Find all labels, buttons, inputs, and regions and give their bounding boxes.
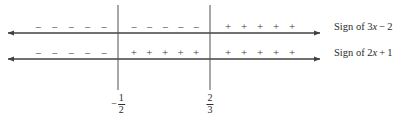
sign-group-top-middle: −−−−−	[126, 20, 204, 34]
plus-sign-icon: +	[142, 47, 158, 58]
negative-sign-icon: −	[111, 99, 117, 109]
fraction-two-thirds: 2 3	[207, 93, 214, 115]
plus-sign-icon: +	[236, 21, 252, 32]
plus-sign-icon: +	[252, 21, 268, 32]
plus-sign-icon: +	[188, 47, 204, 58]
plus-sign-icon: +	[268, 47, 284, 58]
tick-label-neg-one-half: − 1 2	[111, 93, 125, 115]
plus-sign-icon: +	[284, 21, 300, 32]
minus-sign-icon: −	[63, 48, 79, 59]
minus-sign-icon: −	[188, 22, 204, 33]
minus-sign-icon: −	[142, 22, 158, 33]
fraction-denominator: 3	[207, 105, 214, 115]
plus-sign-icon: +	[220, 47, 236, 58]
axis-label-bottom-variable: x	[373, 47, 378, 58]
minus-sign-icon: −	[96, 48, 112, 59]
plus-sign-icon: +	[236, 47, 252, 58]
number-line-axes	[0, 0, 401, 120]
sign-group-top-right: +++++	[220, 19, 300, 33]
fraction-denominator: 2	[118, 105, 125, 115]
axis-label-bottom: Sign of 2x + 1	[334, 47, 393, 58]
axis-label-top-prefix: Sign of	[334, 21, 367, 32]
tick-label-two-thirds: 2 3	[207, 93, 214, 115]
minus-sign-icon: −	[30, 22, 46, 33]
sign-group-top-left: −−−−−	[30, 20, 112, 34]
minus-sign-icon: −	[157, 22, 173, 33]
minus-sign-icon: −	[79, 48, 95, 59]
axis-label-top-constant: 2	[387, 21, 392, 32]
sign-chart-figure: −−−−− −−−−− +++++ −−−−− +++++ +++++ Sign…	[0, 0, 401, 120]
minus-sign-icon: −	[79, 22, 95, 33]
minus-sign-icon: −	[96, 22, 112, 33]
axis-label-bottom-constant: 1	[387, 47, 392, 58]
minus-sign-icon: −	[46, 48, 62, 59]
plus-sign-icon: +	[252, 47, 268, 58]
sign-group-bottom-left: −−−−−	[30, 46, 112, 60]
minus-sign-icon: −	[46, 22, 62, 33]
minus-sign-icon: −	[126, 22, 142, 33]
axis-label-top: Sign of 3x − 2	[334, 21, 393, 32]
plus-sign-icon: +	[126, 47, 142, 58]
plus-sign-icon: +	[157, 47, 173, 58]
minus-sign-icon: −	[30, 48, 46, 59]
fraction-numerator: 1	[118, 93, 125, 103]
axis-label-bottom-operator: +	[379, 47, 385, 58]
minus-sign-icon: −	[63, 22, 79, 33]
sign-group-bottom-middle: +++++	[126, 45, 204, 59]
axis-label-bottom-prefix: Sign of	[334, 47, 367, 58]
minus-sign-icon: −	[173, 22, 189, 33]
fraction-numerator: 2	[207, 93, 214, 103]
sign-group-bottom-right: +++++	[220, 45, 300, 59]
fraction-neg-one-half: 1 2	[118, 93, 125, 115]
axis-label-top-operator: −	[379, 21, 385, 32]
plus-sign-icon: +	[268, 21, 284, 32]
plus-sign-icon: +	[284, 47, 300, 58]
plus-sign-icon: +	[220, 21, 236, 32]
axis-label-top-variable: x	[373, 21, 378, 32]
plus-sign-icon: +	[173, 47, 189, 58]
